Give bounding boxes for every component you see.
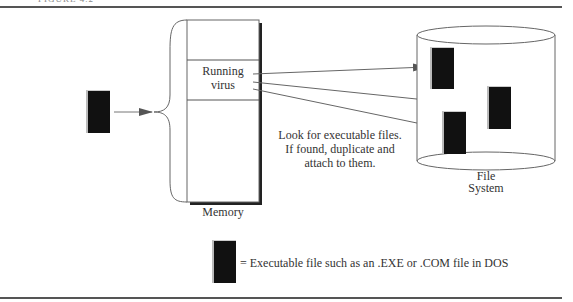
annotation-line2: If found, duplicate and	[270, 142, 410, 156]
executable-file-icon-2	[487, 86, 511, 129]
legend-file-icon	[212, 240, 236, 283]
file-system-label-line2: System	[456, 181, 516, 195]
virus-arrow-1	[253, 67, 426, 74]
virus-arrow-3	[253, 89, 441, 128]
infected-file-icon	[86, 90, 110, 133]
executable-file-icon-1	[430, 47, 454, 89]
running-virus-label-line1: Running	[187, 64, 259, 78]
annotation-line1: Look for executable files.	[270, 128, 410, 142]
bottom-rule	[0, 297, 562, 299]
memory-label: Memory	[187, 205, 259, 219]
annotation-line3: attach to them.	[270, 156, 410, 170]
legend-text: = Executable file such as an .EXE or .CO…	[240, 256, 508, 270]
executable-file-icon-3	[442, 111, 466, 154]
memory-box	[187, 20, 259, 202]
running-virus-label-line2: virus	[187, 78, 259, 92]
memory-brace	[154, 20, 187, 202]
